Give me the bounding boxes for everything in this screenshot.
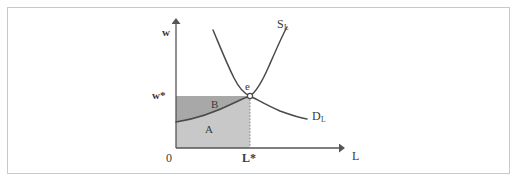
equilibrium-point-marker <box>247 93 252 98</box>
supply-curve-label-subscript: L <box>284 23 289 32</box>
supply-curve-label: SL <box>277 18 288 30</box>
region-a-label: A <box>205 124 213 135</box>
demand-curve-label-text: D <box>312 109 321 123</box>
supply-demand-chart <box>0 0 519 183</box>
region-b-label: B <box>211 99 218 110</box>
equilibrium-point-label: e <box>245 81 250 92</box>
demand-curve-label-subscript: L <box>321 115 326 124</box>
lstar-tick-label: L* <box>242 152 256 164</box>
demand-curve-label: DL <box>312 110 325 122</box>
supply-curve-label-text: S <box>277 17 284 31</box>
wstar-tick-label: w* <box>152 90 165 101</box>
y-axis-label: w <box>162 27 170 38</box>
figure-canvas: w L 0 w* L* SL DL e A B <box>0 0 519 183</box>
origin-label: 0 <box>166 152 172 164</box>
x-axis-label: L <box>352 150 359 162</box>
